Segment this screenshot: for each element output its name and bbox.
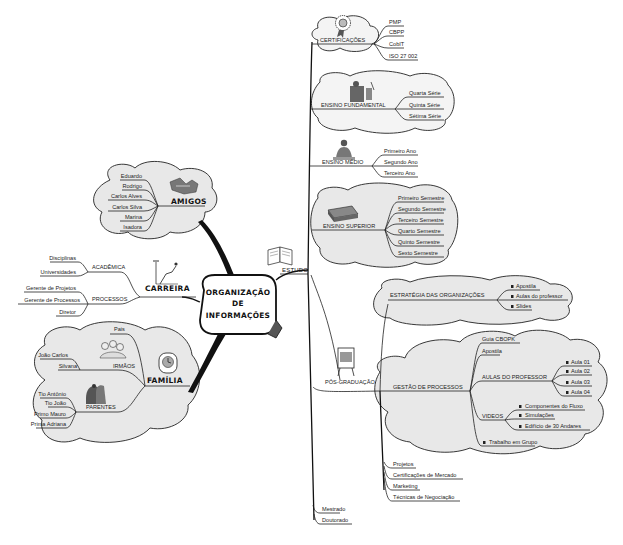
leaf-universidades[interactable]: Universidades <box>41 269 77 275</box>
amigos-label: AMIGOS <box>171 197 207 206</box>
leaf-pmp[interactable]: PMP <box>389 19 401 25</box>
leaf-doutorado[interactable]: Doutorado <box>322 517 348 523</box>
medio-label: ENSINO MÉDIO <box>322 159 364 165</box>
node-videos[interactable]: VIDEOS <box>482 413 503 419</box>
carreira-label: CARREIRA <box>145 284 190 293</box>
leaf-eduardo[interactable]: Eduardo <box>121 173 142 179</box>
leaf-simulacoes[interactable]: Simulações <box>525 412 554 418</box>
leaf-segundo-ano[interactable]: Segundo Ano <box>384 159 418 165</box>
certificacoes-children: PMP CBPP CobIT ISO 27 002 <box>374 19 418 60</box>
leaf-componentes-fluxo[interactable]: Componentes do Fluxo <box>525 403 583 409</box>
leaf-mestrado[interactable]: Mestrado <box>322 506 345 512</box>
leaf-joao-carlos[interactable]: João Carlos <box>38 352 68 358</box>
leaf-tio-joao[interactable]: Tio João <box>45 400 66 406</box>
leaf-marina[interactable]: Marina <box>125 214 143 220</box>
leaf-tio-antonio[interactable]: Tio Antônio <box>38 391 66 397</box>
leaf-silvana[interactable]: Silvana <box>59 363 78 369</box>
node-parentes[interactable]: PARENTES <box>86 404 116 410</box>
leaf-gerente-projetos[interactable]: Gerente de Projetos <box>26 285 76 291</box>
file-icon <box>566 370 569 373</box>
central-topic-line2: DE <box>232 299 244 308</box>
climber-icon <box>153 261 178 284</box>
leaf-quarto-semestre[interactable]: Quarto Semestre <box>398 228 441 234</box>
file-icon <box>566 391 569 394</box>
central-topic-line3: INFORMAÇÕES <box>206 311 270 320</box>
node-irmaos[interactable]: IRMÃOS <box>113 363 135 369</box>
pos-other-children: Projetos Certificações de Mercado Market… <box>384 461 463 501</box>
leaf-aula-02[interactable]: Aula 02 <box>571 368 590 374</box>
familia-label: FAMÍLIA <box>147 376 183 385</box>
node-carreira[interactable]: CARREIRA <box>140 261 196 297</box>
leaf-quarta-serie[interactable]: Quarta Série <box>409 90 441 96</box>
node-academica[interactable]: ACADÊMICA <box>92 263 126 270</box>
branch-amigos <box>198 220 234 275</box>
branch-carreira <box>182 297 200 302</box>
leaf-quinta-serie[interactable]: Quinta Série <box>409 102 440 108</box>
file-icon <box>511 295 514 298</box>
leaf-terceiro-ano[interactable]: Terceiro Ano <box>384 170 415 176</box>
node-ensino-medio[interactable]: ENSINO MÉDIO <box>310 140 372 166</box>
leaf-tecnicas-negociacao[interactable]: Técnicas de Negociação <box>393 494 454 500</box>
leaf-rodrigo[interactable]: Rodrigo <box>122 183 142 189</box>
superior-label: ENSINO SUPERIOR <box>323 223 375 229</box>
leaf-diretor[interactable]: Diretor <box>59 309 76 315</box>
leaf-certificacoes-mercado[interactable]: Certificações de Mercado <box>393 472 456 478</box>
easel-icon <box>338 348 354 376</box>
leaf-primo-mauro[interactable]: Primo Mauro <box>34 411 66 417</box>
leaf-setima-serie[interactable]: Sétima Série <box>409 113 441 119</box>
file-icon <box>511 305 514 308</box>
node-aulas-professor[interactable]: AULAS DO PROFESSOR <box>482 374 547 380</box>
leaf-marketing[interactable]: Marketing <box>393 483 418 489</box>
leaf-carlos-silva[interactable]: Carlos Silva <box>112 204 143 210</box>
leaf-estrategia-apostila[interactable]: Apostila <box>516 283 537 289</box>
student-icon <box>333 140 355 160</box>
central-topic-line1: ORGANIZAÇÃO <box>206 288 271 297</box>
leaf-sexto-semestre[interactable]: Sexto Semestre <box>398 250 438 256</box>
gestao-label: GESTÃO DE PROCESSOS <box>393 384 463 390</box>
leaf-projetos[interactable]: Projetos <box>393 461 414 467</box>
leaf-aula-03[interactable]: Aula 03 <box>571 379 590 385</box>
file-icon <box>519 425 522 428</box>
fundamental-label: ENSINO FUNDAMENTAL <box>321 102 386 108</box>
leaf-edificio-30-andares[interactable]: Edifício de 30 Andares <box>525 423 581 429</box>
medio-children: Primeiro Ano Segundo Ano Terceiro Ano <box>372 148 418 177</box>
node-estudo[interactable]: ESTUDO <box>268 247 308 274</box>
leaf-segundo-semestre[interactable]: Segundo Semestre <box>398 206 446 212</box>
certificacoes-label: CERTIFICAÇÕES <box>320 37 366 43</box>
leaf-aula-04[interactable]: Aula 04 <box>571 389 590 395</box>
leaf-estrategia-aulas[interactable]: Aulas do professor <box>516 293 563 299</box>
central-topic[interactable]: ORGANIZAÇÃO DE INFORMAÇÕES <box>200 275 282 338</box>
book-icon <box>268 247 292 265</box>
node-gestao-processos[interactable]: GESTÃO DE PROCESSOS <box>380 384 470 391</box>
leaf-guia-cbopk[interactable]: Guia CBOPK <box>482 336 515 342</box>
clock-icon <box>159 353 177 373</box>
file-icon <box>519 405 522 408</box>
leaf-estrategia-slides[interactable]: Slides <box>516 303 531 309</box>
file-icon <box>511 285 514 288</box>
estudo-label: ESTUDO <box>282 267 308 273</box>
leaf-quinto-semestre[interactable]: Quinto Semestre <box>398 239 440 245</box>
leaf-gestao-apostila[interactable]: Apostila <box>482 348 503 354</box>
mind-map-canvas: ORGANIZAÇÃO DE INFORMAÇÕES ESTUDO CERTIF… <box>0 0 623 545</box>
leaf-primeiro-semestre[interactable]: Primeiro Semestre <box>398 195 444 201</box>
leaf-cobit[interactable]: CobIT <box>389 41 405 47</box>
file-icon <box>566 381 569 384</box>
node-pos-graduacao[interactable]: PÓS-GRADUAÇÃO <box>313 348 380 392</box>
node-processos[interactable]: PROCESSOS <box>92 296 128 302</box>
file-icon <box>483 441 486 444</box>
leaf-primeiro-ano[interactable]: Primeiro Ano <box>384 148 416 154</box>
pos-graduacao-label: PÓS-GRADUAÇÃO <box>325 379 375 385</box>
leaf-disciplinas[interactable]: Disciplinas <box>49 255 76 261</box>
leaf-iso27002[interactable]: ISO 27 002 <box>389 53 417 59</box>
leaf-terceiro-semestre[interactable]: Terceiro Semestre <box>398 217 443 223</box>
leaf-aula-01[interactable]: Aula 01 <box>571 359 590 365</box>
leaf-prima-adriana[interactable]: Prima Adriana <box>31 421 67 427</box>
leaf-pais[interactable]: Pais <box>114 326 125 332</box>
leaf-isadora[interactable]: Isadora <box>123 224 143 230</box>
leaf-gerente-processos[interactable]: Gerente de Processos <box>24 297 80 303</box>
leaf-trabalho-grupo[interactable]: Trabalho em Grupo <box>489 439 537 445</box>
file-icon <box>566 361 569 364</box>
leaf-carlos-alves[interactable]: Carlos Alves <box>111 193 142 199</box>
leaf-cbpp[interactable]: CBPP <box>389 29 405 35</box>
file-icon <box>519 414 522 417</box>
